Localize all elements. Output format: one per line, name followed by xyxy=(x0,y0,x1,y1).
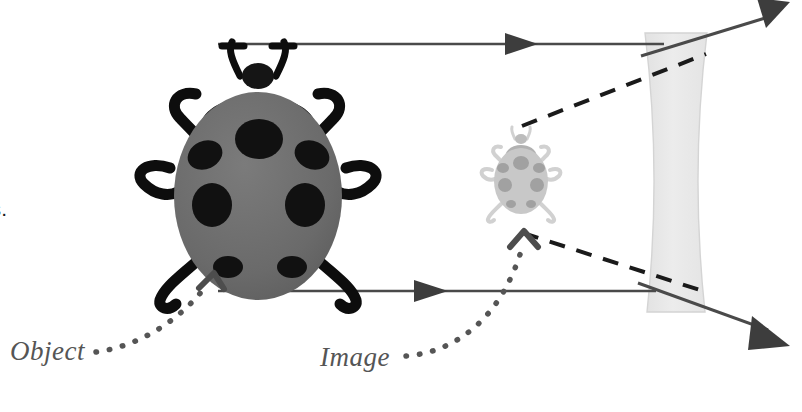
lower-ray-arrowhead xyxy=(414,280,448,302)
image-leader-arrowhead xyxy=(510,231,538,247)
upper-refracted-arrowhead xyxy=(757,0,790,28)
ladybug-object xyxy=(140,42,376,308)
figure-canvas: nd ght s a a ly is. xyxy=(0,0,802,412)
lower-refracted-arrowhead xyxy=(748,316,790,350)
object-head xyxy=(242,63,274,89)
ladybug-virtual-image xyxy=(482,127,561,222)
upper-ray-arrowhead xyxy=(505,33,538,55)
image-label: Image xyxy=(320,342,390,373)
image-leader-dots xyxy=(406,248,522,356)
image-head xyxy=(515,134,527,144)
object-leader xyxy=(96,273,224,352)
object-label: Object xyxy=(10,336,85,367)
optics-ray-diagram xyxy=(0,0,802,412)
object-leader-dots xyxy=(96,286,206,352)
